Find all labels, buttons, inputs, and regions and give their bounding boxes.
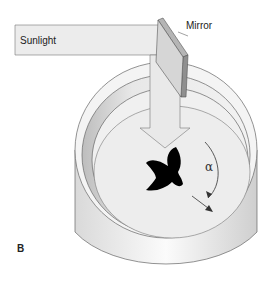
sunlight-label: Sunlight (20, 35, 56, 46)
angle-label: α (205, 160, 213, 174)
panel-label: B (17, 243, 24, 254)
mirror-label: Mirror (186, 20, 212, 31)
